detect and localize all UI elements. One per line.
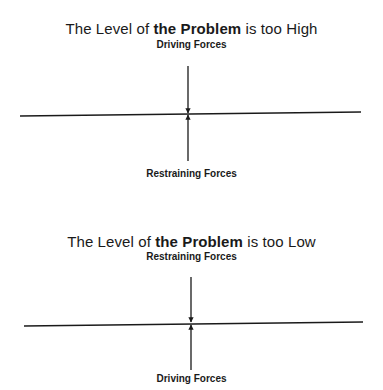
diagram-low xyxy=(24,277,363,370)
title-prefix: The Level of xyxy=(67,233,155,250)
title-suffix: is too Low xyxy=(243,233,316,250)
diagram-low-title: The Level of the Problem is too Low xyxy=(0,233,383,250)
equilibrium-line xyxy=(20,112,361,116)
title-bold: the Problem xyxy=(155,233,243,250)
diagram-high-bottom-label: Restraining Forces xyxy=(0,168,383,179)
title-suffix: is too High xyxy=(241,20,317,37)
diagram-low-bottom-label: Driving Forces xyxy=(0,373,383,384)
diagram-high-top-label: Driving Forces xyxy=(0,39,383,50)
force-field-drawing xyxy=(0,0,383,390)
title-prefix: The Level of xyxy=(65,20,153,37)
diagram-high-title: The Level of the Problem is too High xyxy=(0,20,383,37)
diagram-high xyxy=(20,66,361,161)
equilibrium-line xyxy=(24,322,363,326)
title-bold: the Problem xyxy=(153,20,241,37)
diagram-low-top-label: Restraining Forces xyxy=(0,251,383,262)
